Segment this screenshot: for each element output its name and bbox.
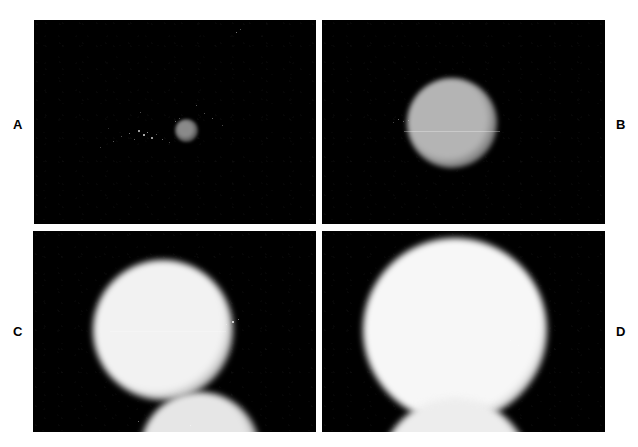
debris-speck bbox=[236, 32, 237, 33]
primary-sphere bbox=[407, 78, 497, 168]
figure-container: ABCD bbox=[0, 0, 638, 447]
debris-speck bbox=[138, 130, 140, 132]
debris-speck bbox=[108, 128, 109, 129]
debris-speck bbox=[100, 147, 101, 148]
debris-speck bbox=[129, 133, 130, 134]
debris-speck bbox=[232, 321, 234, 323]
debris-speck bbox=[138, 421, 139, 422]
debris-speck bbox=[204, 113, 205, 114]
panel-image-area bbox=[322, 231, 605, 432]
debris-speck bbox=[393, 122, 394, 123]
debris-speck bbox=[408, 120, 409, 121]
panel-image-area bbox=[322, 20, 605, 224]
scan-hairline bbox=[404, 131, 500, 132]
panel-label-b: B bbox=[616, 118, 626, 131]
debris-speck bbox=[403, 121, 404, 122]
debris-speck bbox=[162, 139, 163, 140]
panel-image-area bbox=[33, 231, 316, 432]
debris-speck bbox=[169, 142, 170, 143]
debris-speck bbox=[121, 136, 122, 137]
primary-sphere bbox=[175, 119, 198, 142]
micrograph-panel-b bbox=[322, 20, 605, 224]
panel-image-area bbox=[34, 20, 316, 224]
micrograph-panel-c bbox=[33, 231, 316, 432]
panel-label-c: C bbox=[13, 325, 23, 338]
debris-speck bbox=[143, 134, 145, 136]
primary-sphere bbox=[93, 260, 233, 400]
debris-speck bbox=[179, 118, 180, 119]
debris-speck bbox=[196, 105, 197, 106]
debris-speck bbox=[140, 112, 141, 113]
debris-speck bbox=[175, 121, 176, 122]
debris-speck bbox=[151, 137, 153, 139]
panel-label-a: A bbox=[13, 118, 23, 131]
debris-speck bbox=[156, 134, 157, 135]
debris-speck bbox=[147, 132, 148, 133]
debris-speck bbox=[222, 125, 223, 126]
debris-speck bbox=[212, 118, 213, 119]
micrograph-panel-a bbox=[34, 20, 316, 224]
debris-speck bbox=[113, 141, 114, 142]
debris-speck bbox=[240, 29, 241, 30]
panel-label-d: D bbox=[616, 325, 626, 338]
scan-hairline bbox=[110, 331, 226, 332]
micrograph-panel-d bbox=[322, 231, 605, 432]
debris-speck bbox=[134, 139, 135, 140]
debris-speck bbox=[398, 119, 399, 120]
debris-speck bbox=[238, 319, 239, 320]
primary-sphere bbox=[363, 238, 547, 422]
